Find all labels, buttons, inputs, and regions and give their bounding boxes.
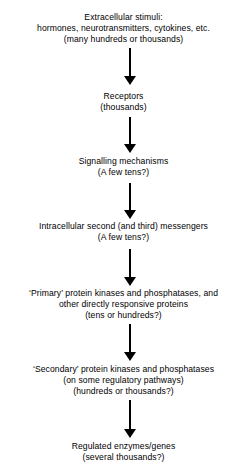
node-secondary-protein-kinases: ‘Secondary’ protein kinases and phosphat… xyxy=(0,364,247,397)
node-line: (thousands) xyxy=(0,102,247,113)
arrow-shaft xyxy=(129,249,131,277)
arrow-shaft xyxy=(129,400,131,429)
node-line: hormones, neurotransmitters, cytokines, … xyxy=(0,23,247,34)
node-line: Receptors xyxy=(0,91,247,102)
arrow-signalling-to-messengers xyxy=(124,183,137,219)
arrow-messengers-to-primary xyxy=(124,249,137,286)
arrow-shaft xyxy=(129,117,131,144)
node-line: (many hundreds or thousands) xyxy=(0,34,247,45)
arrow-receptors-to-signalling xyxy=(124,117,137,153)
arrow-primary-to-secondary xyxy=(124,324,137,361)
node-receptors: Receptors (thousands) xyxy=(0,91,247,113)
node-primary-protein-kinases: ‘Primary’ protein kinases and phosphatas… xyxy=(0,288,247,321)
node-line: (several thousands?) xyxy=(0,452,247,463)
node-line: other directly responsive proteins xyxy=(0,299,247,310)
arrow-stimuli-to-receptors xyxy=(124,48,137,85)
node-line: (hundreds or thousands?) xyxy=(0,386,247,397)
node-line: (A few tens?) xyxy=(0,167,247,178)
node-extracellular-stimuli: Extracellular stimuli: hormones, neurotr… xyxy=(0,12,247,45)
arrow-secondary-to-regulated xyxy=(124,400,137,438)
node-signalling-mechanisms: Signalling mechanisms (A few tens?) xyxy=(0,156,247,178)
node-line: Signalling mechanisms xyxy=(0,156,247,167)
node-line: Regulated enzymes/genes xyxy=(0,441,247,452)
arrow-head xyxy=(124,76,136,85)
node-line: ‘Secondary’ protein kinases and phosphat… xyxy=(0,364,247,375)
arrow-shaft xyxy=(129,48,131,76)
node-line: Intracellular second (and third) messeng… xyxy=(0,221,247,232)
arrow-shaft xyxy=(129,183,131,210)
arrow-head xyxy=(124,210,136,219)
node-line: (A few tens?) xyxy=(0,232,247,243)
node-line: (on some regulatory pathways) xyxy=(0,375,247,386)
arrow-head xyxy=(124,352,136,361)
node-line: (tens or hundreds?) xyxy=(0,310,247,321)
signalling-cascade-diagram: Extracellular stimuli: hormones, neurotr… xyxy=(0,0,247,471)
arrow-head xyxy=(124,144,136,153)
node-line: ‘Primary’ protein kinases and phosphatas… xyxy=(0,288,247,299)
arrow-head xyxy=(124,277,136,286)
node-line: Extracellular stimuli: xyxy=(0,12,247,23)
node-second-messengers: Intracellular second (and third) messeng… xyxy=(0,221,247,243)
arrow-shaft xyxy=(129,324,131,352)
node-regulated-enzymes-genes: Regulated enzymes/genes (several thousan… xyxy=(0,441,247,463)
arrow-head xyxy=(124,429,136,438)
